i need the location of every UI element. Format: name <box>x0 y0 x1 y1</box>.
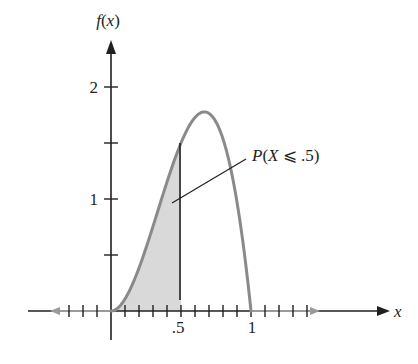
x-tick-label-one: 1 <box>248 318 257 337</box>
x-axis-right-gray-arrow-icon <box>310 307 320 315</box>
y-axis-arrow-icon <box>106 40 116 54</box>
x-axis-label: x <box>393 302 402 321</box>
y-axis-label: f(x) <box>96 11 120 30</box>
x-axis-arrow-icon <box>377 306 390 316</box>
x-tick-label-half: .5 <box>172 318 185 337</box>
y-tick-label-two: 2 <box>90 78 99 97</box>
annotation-probability-label: P(X ⩽ .5) <box>251 146 319 165</box>
beta-density-chart: f(x) x .5 1 2 1 P(X ⩽ .5) <box>0 0 418 364</box>
x-axis-left-gray-arrow-icon <box>50 307 60 315</box>
y-tick-label-one: 1 <box>90 190 99 209</box>
